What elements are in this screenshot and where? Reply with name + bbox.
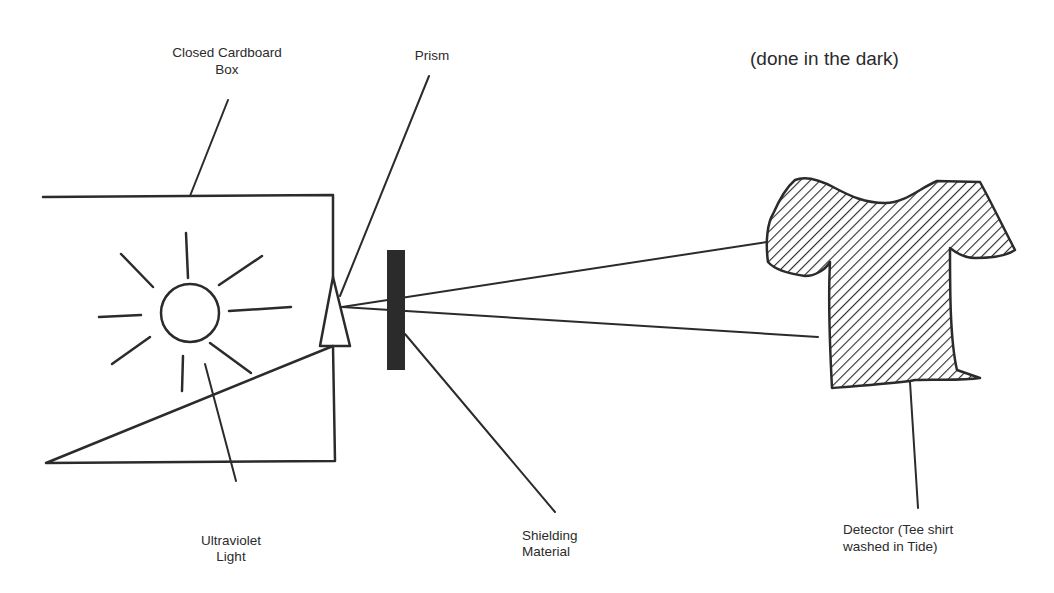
light-leader-line bbox=[205, 364, 236, 481]
light-ray-lower bbox=[342, 307, 818, 337]
shielding-material-bar bbox=[387, 250, 405, 370]
experiment-diagram: (done in the dark) Closed Cardboard Box … bbox=[0, 0, 1054, 593]
cardboard-box bbox=[43, 195, 335, 463]
prism-leader-line bbox=[340, 76, 429, 296]
shield-label-line1: Shielding bbox=[522, 528, 578, 543]
light-label: Ultraviolet Light bbox=[201, 533, 261, 564]
tshirt-detector-icon bbox=[767, 178, 1015, 388]
box-leader-line bbox=[190, 100, 228, 196]
ultraviolet-light-icon bbox=[99, 233, 291, 391]
shield-label-line2: Material bbox=[522, 544, 570, 559]
light-ray-upper bbox=[342, 242, 767, 307]
prism-triangle bbox=[320, 277, 350, 346]
detector-label-line2: washed in Tide) bbox=[842, 539, 938, 554]
box-label-line1: Closed Cardboard bbox=[172, 45, 282, 60]
shield-leader-line bbox=[405, 334, 555, 512]
detector-label-line1: Detector (Tee shirt bbox=[843, 522, 954, 537]
detector-leader-line bbox=[910, 382, 918, 508]
prism-label: Prism bbox=[415, 48, 450, 63]
detector-label: Detector (Tee shirt washed in Tide) bbox=[842, 522, 954, 554]
light-label-line2: Light bbox=[216, 549, 246, 564]
box-label: Closed Cardboard Box bbox=[172, 45, 282, 77]
light-bulb-circle bbox=[161, 284, 219, 342]
dark-condition-note: (done in the dark) bbox=[750, 48, 899, 69]
shield-label: Shielding Material bbox=[522, 528, 578, 559]
light-label-line1: Ultraviolet bbox=[201, 533, 261, 548]
box-label-line2: Box bbox=[215, 62, 239, 77]
